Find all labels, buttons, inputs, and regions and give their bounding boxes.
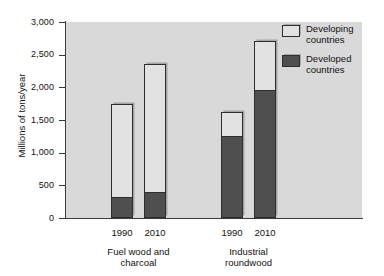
bar-segment-developed: [255, 90, 275, 217]
bar-segment-developing: [222, 113, 242, 138]
group-label-line1: Fuel wood and: [84, 246, 194, 257]
legend-item: Developed countries: [282, 54, 382, 75]
x-axis-tick-label: 2010: [135, 228, 175, 238]
legend-item-label: Developed countries: [306, 54, 351, 75]
y-axis-tick: [59, 153, 66, 154]
group-label-line1: Industrial: [194, 246, 304, 257]
bar-segment-developed: [112, 197, 132, 217]
y-axis-tick: [59, 120, 66, 121]
developing-swatch: [282, 25, 300, 37]
bar-segment-developing: [145, 65, 165, 194]
y-axis-tick: [59, 55, 66, 56]
x-axis-tick-label: 2010: [245, 228, 285, 238]
y-axis-tick-label: 1,000: [31, 148, 54, 157]
developed-swatch: [282, 55, 300, 67]
bar-segment-developing: [255, 42, 275, 92]
y-axis-tick-label: 3,000: [31, 18, 54, 27]
y-axis-tick: [59, 218, 66, 219]
stacked-bar: [144, 64, 166, 218]
stacked-bar: [111, 104, 133, 218]
legend-item: Developing countries: [282, 24, 382, 45]
x-axis-group-label: Industrialroundwood: [194, 246, 304, 268]
y-axis-title: Millions of tons/year: [16, 46, 27, 186]
bar-segment-developed: [222, 136, 242, 217]
legend: Developing countriesDeveloped countries: [282, 24, 382, 84]
stacked-bar: [221, 112, 243, 218]
y-axis-tick: [59, 87, 66, 88]
y-axis-tick-label: 2,500: [31, 50, 54, 59]
stacked-bar: [254, 41, 276, 218]
y-axis-tick-label: 1,500: [31, 116, 54, 125]
y-axis-tick-label: 0: [49, 214, 54, 223]
group-label-line2: roundwood: [194, 257, 304, 268]
group-label-line2: charcoal: [84, 257, 194, 268]
y-axis-tick-label: 500: [39, 181, 54, 190]
y-axis-tick: [59, 185, 66, 186]
y-axis-tick-label: 2,000: [31, 83, 54, 92]
bar-segment-developed: [145, 192, 165, 217]
x-axis-group-label: Fuel wood andcharcoal: [84, 246, 194, 268]
x-axis-line: [65, 218, 363, 219]
chart-figure: Millions of tons/year 3,0002,5002,0001,5…: [0, 0, 384, 276]
legend-item-label: Developing countries: [306, 24, 354, 45]
y-axis-tick: [59, 22, 66, 23]
bar-segment-developing: [112, 105, 132, 200]
